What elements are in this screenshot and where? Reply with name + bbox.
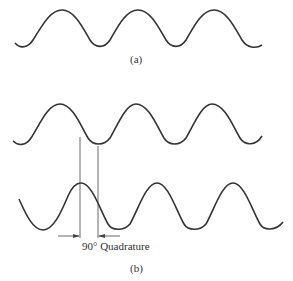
quadrature-annotation: 90° Quadrature: [82, 240, 150, 252]
arrowhead-left-icon: [98, 234, 105, 238]
sine-wave-b-quadrature: [19, 183, 283, 230]
arrowhead-right-icon: [73, 234, 80, 238]
caption-a: (a): [130, 53, 142, 65]
quadrature-diagram: [0, 0, 293, 281]
sine-wave-a: [15, 10, 262, 47]
caption-b: (b): [130, 262, 143, 274]
sine-wave-b-reference: [13, 104, 262, 144]
